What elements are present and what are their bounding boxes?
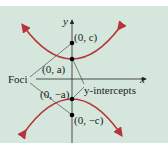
intercept-leader-lower	[73, 87, 84, 98]
point-c-label: (0, c)	[74, 32, 97, 43]
foci-label: Foci	[8, 74, 28, 85]
intercept-leader-upper	[73, 60, 84, 84]
point-neg-c-label: (0, −c)	[74, 115, 103, 126]
x-axis-label: x	[140, 74, 145, 85]
vertex-lower-point	[70, 97, 75, 102]
y-intercepts-label: y-intercepts	[84, 85, 136, 96]
point-a-label: (0, a)	[42, 64, 65, 75]
point-neg-a-label: (0, −a)	[40, 89, 69, 100]
vertex-upper-point	[70, 57, 75, 62]
y-axis-label: y	[63, 16, 68, 27]
